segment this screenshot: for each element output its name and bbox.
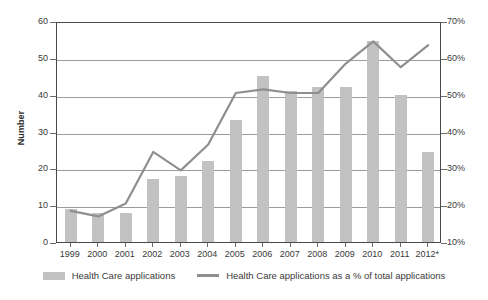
x-axis-tick-mark [345,243,346,247]
x-axis-tick-mark [207,243,208,247]
x-axis-tick-mark [372,243,373,247]
legend-item-line: Health Care applications as a % of total… [197,270,445,281]
y-axis-left-tick-label: 20 [8,163,48,173]
chart-container: Number 0102030405060 10%20%30%40%50%60%7… [0,0,488,300]
line-series [57,23,442,244]
y-axis-right-tick-label: 20% [447,200,488,210]
x-axis-tick-label: 2009 [331,249,359,259]
x-axis-tick-mark [427,243,428,247]
y-axis-right-tick-label: 30% [447,163,488,173]
y-axis-left-tick-label: 10 [8,200,48,210]
x-axis-tick-mark [152,243,153,247]
x-axis-tick-mark [70,243,71,247]
x-axis-tick-mark [235,243,236,247]
x-axis-tick-mark [97,243,98,247]
x-axis-tick-mark [180,243,181,247]
x-axis-tick-label: 2007 [276,249,304,259]
x-axis-tick-label: 2010 [359,249,387,259]
line-swatch-icon [197,274,219,277]
y-axis-left-tick-label: 60 [8,16,48,26]
y-axis-left-tick-label: 30 [8,127,48,137]
plot-area [56,22,441,243]
x-axis-tick-mark [290,243,291,247]
x-axis-tick-label: 2006 [249,249,277,259]
x-axis-tick-label: 2005 [221,249,249,259]
y-axis-right-tick-label: 60% [447,53,488,63]
legend-item-bar: Health Care applications [43,270,176,281]
y-axis-left-tick-mark [50,243,56,244]
x-axis-tick-label: 2012* [414,249,442,259]
x-axis-tick-mark [125,243,126,247]
x-axis-tick-mark [262,243,263,247]
x-axis-tick-label: 2003 [166,249,194,259]
y-axis-right-tick-label: 10% [447,237,488,247]
x-axis-tick-mark [400,243,401,247]
x-axis-tick-label: 2001 [111,249,139,259]
bar-swatch-icon [43,272,65,280]
y-axis-left-tick-label: 40 [8,90,48,100]
x-axis-tick-label: 1999 [56,249,84,259]
x-axis-tick-label: 2011 [386,249,414,259]
legend-label-line: Health Care applications as a % of total… [226,270,445,281]
y-axis-right-tick-label: 50% [447,90,488,100]
y-axis-right-tick-label: 70% [447,16,488,26]
x-axis-tick-mark [317,243,318,247]
x-axis-tick-label: 2000 [84,249,112,259]
y-axis-left-tick-label: 50 [8,53,48,63]
chart-legend: Health Care applications Health Care app… [0,270,488,281]
y-axis-left-tick-label: 0 [8,237,48,247]
x-axis-tick-label: 2002 [139,249,167,259]
x-axis-tick-label: 2008 [304,249,332,259]
legend-label-bar: Health Care applications [72,270,176,281]
x-axis-tick-label: 2004 [194,249,222,259]
y-axis-right-tick-label: 40% [447,127,488,137]
